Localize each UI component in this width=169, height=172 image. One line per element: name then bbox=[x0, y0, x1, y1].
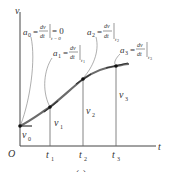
origin-label: O bbox=[8, 148, 15, 159]
svg-text:t: t bbox=[46, 149, 49, 160]
svg-text:2: 2 bbox=[84, 156, 87, 162]
svg-text:t: t bbox=[79, 149, 82, 160]
leader-a1 bbox=[45, 58, 52, 105]
svg-text:t = 0: t = 0 bbox=[51, 36, 61, 41]
svg-text:0: 0 bbox=[28, 32, 31, 38]
svg-text:dv: dv bbox=[104, 23, 110, 29]
svg-text:dv: dv bbox=[137, 42, 143, 48]
svg-text:=: = bbox=[33, 27, 38, 37]
annotation-a3: a 3 = dv dt t 3 bbox=[120, 42, 152, 61]
svg-text:1: 1 bbox=[58, 53, 61, 59]
svg-text:v: v bbox=[54, 117, 59, 128]
svg-text:dv: dv bbox=[40, 24, 46, 30]
svg-text:t: t bbox=[112, 149, 115, 160]
svg-text:1: 1 bbox=[51, 156, 54, 162]
point-2 bbox=[81, 77, 85, 81]
velocity-label-v0: v 0 bbox=[22, 129, 31, 142]
annotation-a2: a 2 = dv dt t 2 bbox=[87, 23, 119, 43]
svg-text:dt: dt bbox=[40, 33, 45, 39]
velocity-curve bbox=[20, 64, 129, 126]
svg-text:2: 2 bbox=[117, 38, 119, 43]
svg-text:=: = bbox=[130, 45, 135, 55]
velocity-label-v2: v 2 bbox=[86, 105, 95, 118]
svg-text:v: v bbox=[22, 129, 27, 140]
tick-t2: t 2 bbox=[79, 149, 87, 162]
tick-t3: t 3 bbox=[112, 149, 120, 162]
velocity-label-v3: v 3 bbox=[119, 89, 128, 102]
point-1 bbox=[48, 105, 52, 109]
annotation-a1: a 1 = dv dt t 1 bbox=[53, 45, 85, 64]
point-3 bbox=[114, 64, 118, 68]
svg-text:2: 2 bbox=[92, 112, 95, 118]
t-axis-label: t bbox=[158, 141, 161, 152]
svg-text:3: 3 bbox=[125, 96, 128, 102]
svg-text:=: = bbox=[63, 48, 68, 58]
figure-caption: (a) bbox=[76, 168, 86, 172]
svg-text:1: 1 bbox=[83, 59, 85, 64]
svg-text:3: 3 bbox=[125, 50, 128, 56]
svg-text:dt: dt bbox=[137, 51, 142, 57]
svg-text:1: 1 bbox=[60, 124, 63, 130]
svg-text:3: 3 bbox=[117, 156, 120, 162]
v-axis-label: v bbox=[15, 5, 20, 16]
svg-text:dt: dt bbox=[70, 54, 75, 60]
svg-text:=: = bbox=[97, 27, 102, 37]
svg-text:v: v bbox=[86, 105, 91, 116]
leader-a0 bbox=[21, 37, 33, 124]
svg-text:v: v bbox=[119, 89, 124, 100]
velocity-label-v1: v 1 bbox=[54, 117, 63, 130]
svg-text:0: 0 bbox=[28, 136, 31, 142]
leader-a3 bbox=[115, 54, 120, 64]
svg-text:3: 3 bbox=[150, 56, 152, 61]
point-0 bbox=[18, 124, 22, 128]
svg-text:2: 2 bbox=[92, 32, 95, 38]
velocity-time-diagram: v t O t 1 t 2 t 3 v 0 v 1 v 2 v 3 a 0 = … bbox=[0, 0, 169, 172]
annotation-a0: a 0 = dv dt t = 0 = 0 bbox=[23, 24, 64, 41]
svg-text:dv: dv bbox=[70, 45, 76, 51]
svg-text:dt: dt bbox=[104, 33, 109, 39]
svg-text:= 0: = 0 bbox=[52, 26, 64, 36]
tick-t1: t 1 bbox=[46, 149, 54, 162]
